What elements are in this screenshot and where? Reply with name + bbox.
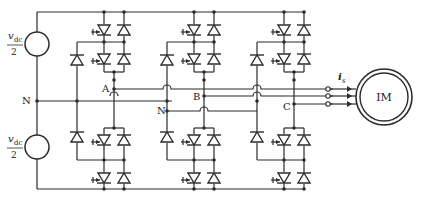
phase-b-label: B [193, 91, 200, 102]
current-arrow-c [347, 101, 352, 107]
diode-a4 [117, 173, 131, 183]
switch-a4 [91, 173, 111, 183]
switch-a1 [91, 25, 111, 35]
phase-c-label: C [283, 101, 291, 112]
upper-dc-source [25, 32, 49, 56]
switch-a2 [91, 54, 111, 64]
neutral-label-left: N [22, 95, 31, 106]
diode-a2 [117, 54, 131, 64]
diode-a3 [117, 135, 131, 145]
phase-leg-c [250, 10, 311, 191]
current-arrow-a [347, 86, 352, 92]
switch-a3 [91, 135, 111, 145]
output-terminals [326, 86, 356, 107]
motor-label: IM [376, 91, 392, 104]
svg-text:s: s [342, 77, 346, 85]
svg-text:2: 2 [11, 47, 17, 57]
lower-dc-source [25, 135, 49, 159]
neutral-label-mid: N [157, 105, 166, 116]
clamp-diode-a-lower [70, 132, 84, 142]
phase-a-label: A [101, 83, 110, 94]
circuit-svg: v dc 2 v dc 2 N [0, 0, 426, 200]
current-arrow-b [347, 93, 352, 99]
upper-source-label: v dc 2 [7, 30, 23, 57]
lower-source-label: v dc 2 [7, 133, 23, 160]
svg-text:2: 2 [11, 150, 17, 160]
current-label: i s [338, 71, 346, 85]
induction-motor: IM [356, 69, 412, 125]
npc-inverter-diagram: v dc 2 v dc 2 N [0, 0, 426, 200]
svg-text:dc: dc [14, 139, 22, 147]
clamp-diode-a-upper [70, 55, 84, 65]
svg-text:dc: dc [14, 36, 22, 44]
diode-a1 [117, 25, 131, 35]
